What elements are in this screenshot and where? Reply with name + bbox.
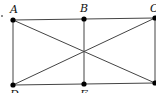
point-E — [81, 81, 86, 86]
point-F — [152, 80, 156, 85]
label-B: B — [79, 2, 88, 15]
point-C — [152, 15, 156, 20]
point-D — [10, 82, 15, 87]
label-C: C — [150, 2, 156, 15]
points — [1, 15, 156, 87]
stray-mark — [1, 15, 3, 17]
segments — [13, 18, 155, 85]
label-E: E — [79, 88, 88, 93]
labels: A B C D E — [9, 2, 156, 93]
point-A — [10, 17, 15, 22]
label-A: A — [9, 3, 18, 16]
label-D: D — [9, 88, 19, 93]
geometry-diagram: A B C D E — [0, 0, 156, 93]
point-B — [81, 16, 86, 21]
